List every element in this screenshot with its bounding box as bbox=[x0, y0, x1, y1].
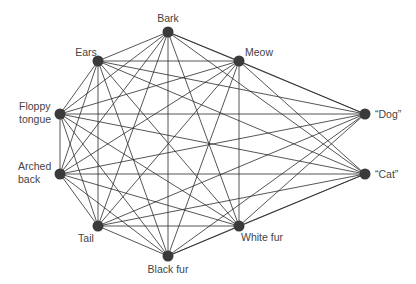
edge-white-cat bbox=[239, 174, 365, 226]
edge-floppy-black bbox=[60, 114, 168, 256]
edge-arched-tail bbox=[60, 174, 98, 226]
edge-tail-black bbox=[98, 226, 168, 256]
edge-ears-black bbox=[98, 61, 168, 256]
node-meow bbox=[234, 56, 245, 67]
node-label-black: Black fur bbox=[148, 263, 189, 275]
node-black bbox=[163, 251, 174, 262]
edges-layer bbox=[60, 32, 365, 256]
edge-meow-arched bbox=[60, 61, 239, 174]
edge-ears-dog bbox=[98, 61, 365, 114]
edge-bark-ears bbox=[98, 32, 168, 61]
node-label-tail: Tail bbox=[78, 232, 94, 244]
edge-floppy-white bbox=[60, 114, 239, 226]
edge-arched-white bbox=[60, 174, 239, 226]
edge-meow-floppy bbox=[60, 61, 239, 114]
node-arched bbox=[55, 169, 66, 180]
network-diagram: BarkEarsMeowFloppytongueArchedbackTailBl… bbox=[0, 0, 416, 284]
edge-ears-floppy bbox=[60, 61, 98, 114]
node-bark bbox=[163, 27, 174, 38]
edge-meow-dog bbox=[239, 61, 365, 114]
node-label-arched: Archedback bbox=[18, 160, 51, 185]
node-label-meow: Meow bbox=[245, 46, 273, 58]
edge-bark-floppy bbox=[60, 32, 168, 114]
node-label-bark: Bark bbox=[157, 12, 179, 24]
node-tail bbox=[93, 221, 104, 232]
node-label-ears: Ears bbox=[75, 46, 97, 58]
node-white bbox=[234, 221, 245, 232]
node-dog bbox=[360, 109, 371, 120]
edge-tail-dog bbox=[98, 114, 365, 226]
node-label-cat: “Cat” bbox=[375, 168, 399, 180]
network-graph-canvas: BarkEarsMeowFloppytongueArchedbackTailBl… bbox=[0, 0, 416, 284]
node-label-floppy: Floppytongue bbox=[19, 100, 51, 125]
node-cat bbox=[360, 169, 371, 180]
node-floppy bbox=[55, 109, 66, 120]
node-label-white: White fur bbox=[241, 231, 284, 243]
edge-meow-black bbox=[168, 61, 239, 256]
edge-tail-cat bbox=[98, 174, 365, 226]
node-label-dog: “Dog” bbox=[375, 108, 402, 120]
edge-arched-black bbox=[60, 174, 168, 256]
